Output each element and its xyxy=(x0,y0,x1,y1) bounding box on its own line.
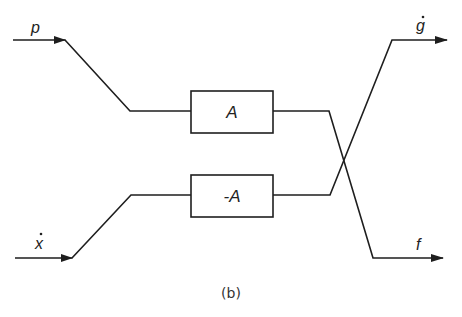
block-neg-a: -A xyxy=(191,175,273,217)
arrow-right-icon xyxy=(61,254,73,262)
figure-caption: (b) xyxy=(221,285,241,301)
arrow-right-icon xyxy=(54,36,66,44)
input-p-label: p xyxy=(30,19,40,36)
block-a: A xyxy=(191,91,273,133)
block-neg-a-label: -A xyxy=(224,187,241,206)
block-a-label: A xyxy=(225,103,237,122)
input-x-dot-label: x xyxy=(34,235,44,252)
arrow-right-icon xyxy=(431,254,444,262)
input-p-wire xyxy=(13,36,191,111)
block-diagram: p x A -A f g (b) xyxy=(0,0,462,317)
output-f-label: f xyxy=(416,236,422,253)
g-dot-derivative-mark xyxy=(422,16,425,19)
output-g-dot-label: g xyxy=(416,17,425,34)
arrow-right-icon xyxy=(435,36,448,44)
output-g-dot-wire xyxy=(273,36,448,195)
x-dot-derivative-mark xyxy=(40,233,43,236)
